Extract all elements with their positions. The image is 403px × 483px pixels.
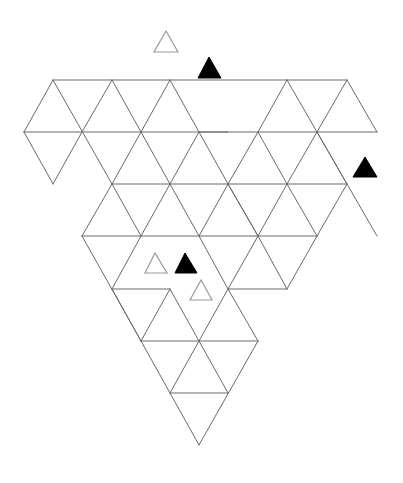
- grid-edge: [317, 132, 347, 184]
- grid-edge: [141, 132, 170, 184]
- grid-edge: [287, 236, 317, 289]
- filled-triangle-piece[interactable]: [198, 57, 221, 78]
- outline-triangle-piece[interactable]: [145, 253, 167, 273]
- grid-edge: [170, 80, 199, 132]
- grid-edge: [141, 289, 170, 341]
- grid-edge: [258, 236, 287, 289]
- grid-edge: [170, 184, 199, 236]
- grid-edge: [228, 132, 258, 184]
- puzzle-board[interactable]: [0, 0, 403, 483]
- grid-edge: [199, 341, 228, 393]
- grid-edge: [112, 289, 141, 341]
- grid-edge: [82, 184, 112, 236]
- grid-edge: [228, 236, 258, 289]
- outline-triangle-piece[interactable]: [154, 31, 178, 52]
- grid-edge: [199, 236, 228, 289]
- grid-edge: [141, 184, 170, 236]
- grid-edge: [141, 80, 170, 132]
- outline-triangle-piece[interactable]: [190, 280, 212, 300]
- grid-edge: [170, 132, 199, 184]
- grid-edge: [287, 184, 317, 236]
- grid-edge: [24, 80, 53, 132]
- grid-edge: [199, 184, 228, 236]
- filled-triangle-piece[interactable]: [353, 157, 377, 177]
- grid-edge: [317, 80, 347, 132]
- grid-edge: [258, 132, 287, 184]
- grid-edge: [228, 184, 258, 236]
- grid-edge: [228, 289, 258, 341]
- grid-edge: [112, 184, 141, 236]
- triangle-grid: [0, 0, 403, 483]
- filled-triangle-piece[interactable]: [175, 253, 197, 273]
- grid-edge: [112, 80, 141, 132]
- grid-edge: [347, 80, 377, 132]
- grid-edge: [24, 132, 53, 184]
- grid-edge: [258, 184, 287, 236]
- grid-edge: [112, 236, 141, 289]
- grid-edge: [287, 132, 317, 184]
- grid-edge: [170, 341, 199, 393]
- grid-edge: [317, 184, 347, 236]
- grid-edge: [199, 132, 228, 184]
- grid-edge: [258, 80, 287, 132]
- grid-edge: [53, 132, 82, 184]
- grid-edge: [112, 132, 141, 184]
- grid-edge: [82, 80, 112, 132]
- grid-edges: [24, 80, 377, 445]
